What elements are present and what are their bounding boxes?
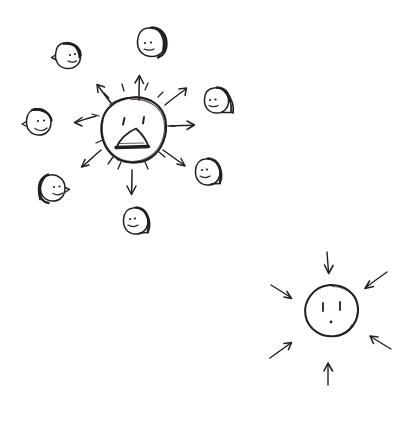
arrow-out-ne: [165, 88, 187, 105]
sketch-drawing: [0, 0, 414, 439]
calm-face-eyes: [323, 302, 340, 311]
arrow-out-e: [171, 121, 195, 130]
arrow-in-sw: [270, 343, 292, 359]
outgoing-arrows-group: [75, 76, 195, 195]
arrow-in-ne: [365, 272, 387, 289]
arrow-out-se: [163, 150, 185, 166]
calm-face-mouth: [330, 321, 333, 324]
head-top: [137, 28, 166, 58]
head-lower-left: [39, 175, 70, 204]
incoming-arrows-group: [270, 252, 391, 385]
head-right: [195, 159, 221, 186]
arrow-in-n: [325, 252, 334, 274]
arrow-out-n: [135, 76, 144, 101]
shouting-face-eyes: [123, 117, 144, 125]
arrow-in-s: [324, 363, 333, 385]
head-upper-right: [204, 88, 233, 114]
calm-face: [305, 285, 358, 336]
head-left: [22, 108, 52, 135]
sketch-canvas: [0, 0, 414, 439]
head-bottom: [123, 208, 149, 235]
shouting-face-mouth: [116, 129, 149, 148]
head-upper-left: [52, 42, 82, 68]
arrow-in-w: [271, 285, 292, 299]
receiving-scene: [270, 252, 391, 385]
sunburst-ticks: [92, 83, 175, 169]
arrow-in-e: [370, 336, 391, 349]
listener-heads-group: [22, 28, 233, 235]
arrow-out-s: [127, 170, 136, 195]
shouting-face: [101, 97, 166, 162]
broadcast-scene: [22, 28, 233, 235]
arrow-out-sw: [82, 150, 102, 167]
arrow-out-w: [75, 116, 97, 126]
